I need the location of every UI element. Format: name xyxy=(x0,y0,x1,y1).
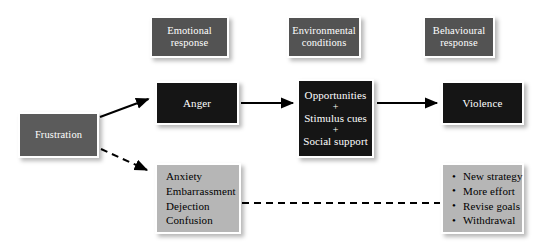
node-opportunities-label: Opportunities xyxy=(305,89,367,102)
list-item: New strategy xyxy=(452,169,523,184)
column-header-line-1: Environmental xyxy=(292,25,356,37)
column-header-emotional-response: Emotional response xyxy=(150,16,229,58)
connector-frustration-to-anger xyxy=(100,99,149,117)
node-plus-sign-2: + xyxy=(333,125,339,136)
node-coping-responses: New strategy More effort Revise goals Wi… xyxy=(441,163,524,234)
node-violence: Violence xyxy=(441,81,524,125)
list-item: Revise goals xyxy=(452,199,523,214)
negative-emotion-item: Embarrassment xyxy=(166,184,236,199)
node-anger-label: Anger xyxy=(183,97,211,110)
flow-diagram: Emotional response Environmental conditi… xyxy=(0,0,547,249)
list-item: Withdrawal xyxy=(452,213,523,228)
negative-emotion-item: Anxiety xyxy=(166,169,202,184)
list-item: More effort xyxy=(452,184,523,199)
node-negative-emotions: Anxiety Embarrassment Dejection Confusio… xyxy=(155,163,241,234)
column-header-environmental-conditions: Environmental conditions xyxy=(287,16,361,58)
node-frustration-label: Frustration xyxy=(35,129,82,141)
column-header-line-2: response xyxy=(171,37,209,49)
node-violence-label: Violence xyxy=(463,97,503,110)
node-social-support-label: Social support xyxy=(303,135,368,148)
node-environmental-conditions: Opportunities + Stimulus cues + Social s… xyxy=(297,79,374,158)
column-header-line-2: conditions xyxy=(302,37,347,49)
node-plus-sign-1: + xyxy=(333,102,339,113)
negative-emotion-item: Confusion xyxy=(166,213,213,228)
column-header-line-1: Behavioural xyxy=(433,25,485,37)
node-anger: Anger xyxy=(155,81,239,125)
column-header-behavioural-response: Behavioural response xyxy=(423,16,495,58)
node-frustration: Frustration xyxy=(18,112,99,158)
negative-emotion-item: Dejection xyxy=(166,199,210,214)
coping-responses-list: New strategy More effort Revise goals Wi… xyxy=(452,169,523,228)
column-header-line-2: response xyxy=(440,37,478,49)
column-header-line-1: Emotional xyxy=(167,25,212,37)
connector-frustration-to-negative-emotions xyxy=(101,149,147,170)
